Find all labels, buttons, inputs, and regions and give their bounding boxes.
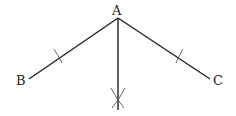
segment-ab [29, 18, 118, 79]
point-label-b: B [16, 74, 26, 87]
segment-ac [118, 18, 210, 79]
point-label-c: C [213, 74, 223, 87]
point-label-a: A [112, 4, 121, 17]
angle-bisector-diagram: A B C [0, 0, 236, 116]
